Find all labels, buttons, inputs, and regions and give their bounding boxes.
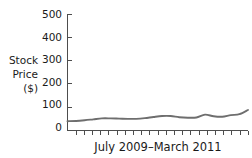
y-tick-label-400: 400 (42, 31, 62, 43)
stock-price-series-line (68, 110, 249, 121)
stock-price-line-chart: Stock Price ($) 500 400 300 200 100 0 (0, 0, 252, 158)
y-axis-title-line-2: Price (12, 68, 38, 80)
y-axis-title-line-3: ($) (23, 82, 38, 94)
y-tick-label-200: 200 (42, 76, 62, 88)
y-tick-label-0: 0 (55, 121, 62, 133)
y-tick-label-300: 300 (42, 53, 62, 65)
y-tick-label-100: 100 (42, 98, 62, 110)
x-tick-marks (76, 131, 248, 135)
y-tick-label-500: 500 (42, 8, 62, 20)
y-axis-title-line-1: Stock (9, 54, 39, 66)
chart-canvas: Stock Price ($) 500 400 300 200 100 0 (0, 0, 252, 158)
x-axis-title: July 2009–March 2011 (93, 140, 221, 154)
